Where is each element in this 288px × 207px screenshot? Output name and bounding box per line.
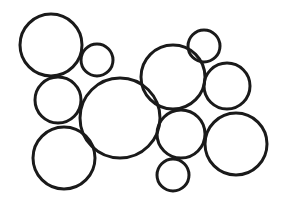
circle-cluster-diagram [0,0,288,207]
background [0,0,288,207]
